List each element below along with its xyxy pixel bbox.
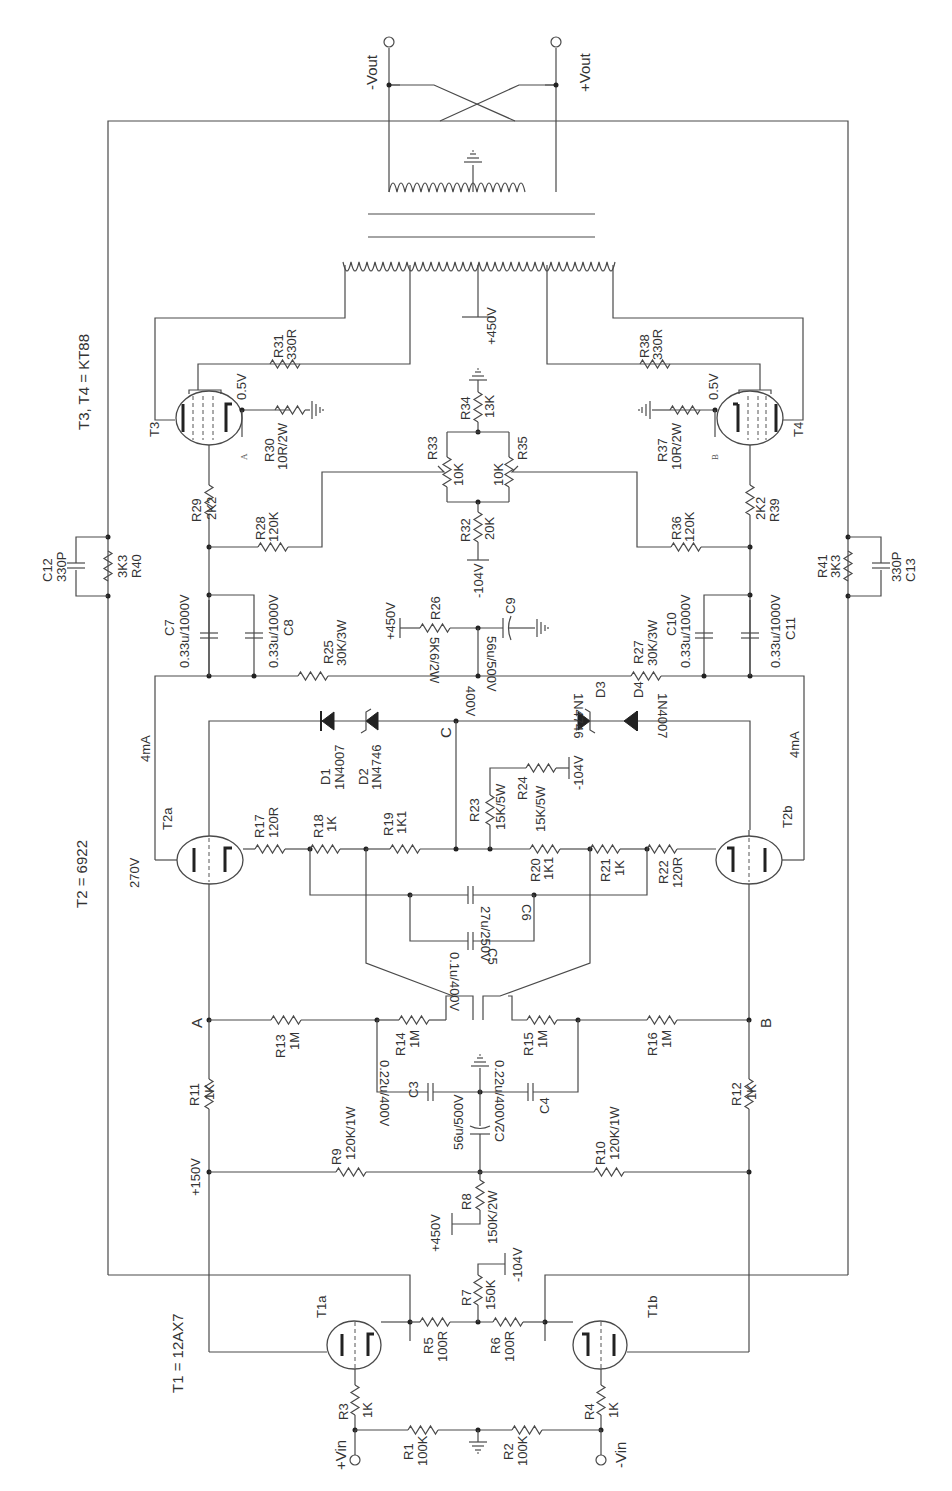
vin-neg-terminal[interactable] <box>596 1455 606 1465</box>
d4-val: 1N4007 <box>655 693 670 739</box>
c3-ref: C3 <box>406 1081 421 1098</box>
voltage-label: -104V <box>510 1247 525 1282</box>
voltage-label: 0.5V <box>706 373 721 400</box>
r40-ref: R40 <box>129 554 144 578</box>
tube-t1b <box>545 1321 749 1385</box>
note-t34-type: T3, T4 = KT88 <box>75 334 92 430</box>
t1-cathode-network <box>408 1253 548 1326</box>
r38-val: 330R <box>650 329 665 360</box>
r11-ref: R11 <box>187 1083 202 1106</box>
d4-ref: D4 <box>631 681 646 698</box>
c2-val: 56u/500V <box>451 1094 466 1150</box>
c11-ref: C11 <box>783 617 798 640</box>
r27-ref: R27 <box>631 640 646 664</box>
r9-ref: R9 <box>329 1148 344 1165</box>
node-label-a: A <box>188 1018 205 1028</box>
node-label-c: C <box>437 727 454 738</box>
secondary-ground-icon <box>464 151 482 162</box>
feedback-rc-right <box>844 535 890 599</box>
r4-ref: R4 <box>582 1403 597 1420</box>
tube-t2a <box>155 830 243 1020</box>
r35-val: 10K <box>491 463 506 486</box>
voltage-label: -104V <box>471 563 486 598</box>
current-label: 4mA <box>138 735 153 762</box>
d3-val: 1N4746 <box>571 693 586 739</box>
r26-val: 5K6/2W <box>427 637 442 684</box>
c12-val: 330P <box>54 552 69 582</box>
r39-ref: R39 <box>767 498 782 522</box>
r32-val: 20K <box>482 517 497 540</box>
r28-val: 120K <box>266 511 281 542</box>
r27-val: 30K/3W <box>645 619 660 666</box>
c3-val: 0.22u/400V <box>377 1060 392 1127</box>
c7-ref: C7 <box>162 619 177 636</box>
r3-ref: R3 <box>336 1403 351 1420</box>
r1-val: 100K <box>415 1435 430 1466</box>
r25-val: 30K/3W <box>334 619 349 666</box>
r13-val: 1M <box>287 1032 302 1050</box>
r7-val: 150K <box>483 1279 498 1310</box>
r22-val: 120R <box>670 857 685 888</box>
r14-val: 1M <box>407 1030 422 1048</box>
r22-ref: R22 <box>656 860 671 884</box>
r33-ref: R33 <box>425 436 440 460</box>
vin-pos-label: +Vin <box>332 1440 349 1470</box>
c11-val: 0.33u/1000V <box>768 594 783 668</box>
r19-val: 1K1 <box>394 811 409 834</box>
vout-pos-terminal[interactable] <box>551 37 561 47</box>
plus150-rail <box>207 1168 752 1235</box>
tube-t2b <box>716 830 804 1020</box>
r15-val: 1M <box>535 1030 550 1048</box>
r2-val: 100K <box>515 1435 530 1466</box>
vout-pos-label: +Vout <box>576 52 593 92</box>
tube-label-t1b: T1b <box>645 1296 660 1318</box>
r14-ref: R14 <box>393 1032 408 1056</box>
r23-ref: R23 <box>467 798 482 822</box>
r6-val: 100R <box>502 1331 517 1362</box>
r1-ref: R1 <box>401 1443 416 1460</box>
r15-ref: R15 <box>521 1032 536 1056</box>
tube-label-t1a: T1a <box>314 1295 329 1318</box>
vin-pos-terminal[interactable] <box>350 1455 360 1465</box>
r8-val: 150K/2W <box>485 1190 500 1244</box>
r26-ref: R26 <box>428 596 443 620</box>
node-label-b: B <box>757 1018 774 1028</box>
r35-ref: R35 <box>515 436 530 460</box>
r34-val: 13K <box>482 395 497 418</box>
vout-neg-terminal[interactable] <box>384 37 394 47</box>
d3-ref: D3 <box>593 681 608 698</box>
r11-val: 1K <box>202 1084 217 1100</box>
note-t1-type: T1 = 12AX7 <box>169 1313 186 1393</box>
r12-ref: R12 <box>729 1082 744 1106</box>
r20-val: 1K1 <box>541 857 556 880</box>
r37-val: 10R/2W <box>669 422 684 470</box>
d1-val: 1N4007 <box>332 744 347 790</box>
r29-ref: R29 <box>189 498 204 522</box>
c8-val: 0.33u/1000V <box>266 594 281 668</box>
r33-val: 10K <box>451 463 466 486</box>
feedback-rc-left <box>67 535 112 599</box>
r36-val: 120K <box>682 511 697 542</box>
c10-val: 0.33u/1000V <box>678 594 693 668</box>
r31-val: 330R <box>284 329 299 360</box>
tube-label-t4: T4 <box>791 422 806 437</box>
r4-val: 1K <box>606 1402 621 1418</box>
c5-val: 0.1u/400V <box>447 952 462 1012</box>
c8-ref: C8 <box>281 619 296 636</box>
r13-ref: R13 <box>273 1034 288 1058</box>
r9-val: 120K/1W <box>343 1106 358 1160</box>
c12-ref: C12 <box>40 558 55 582</box>
r5-val: 100R <box>435 1331 450 1362</box>
tube-t1a <box>209 1321 410 1385</box>
r5-ref: R5 <box>421 1337 436 1354</box>
c9-val: 56u/500V <box>484 636 499 692</box>
c9-ref: C9 <box>503 597 518 614</box>
c5-ref-display: C5 <box>485 948 500 965</box>
r26-c9-supply <box>400 616 548 676</box>
r37-ref: R37 <box>655 438 670 462</box>
r12-val: 1K <box>744 1084 759 1100</box>
r16-val: 1M <box>659 1030 674 1048</box>
current-label: 4mA <box>787 731 802 758</box>
r10-ref: R10 <box>593 1141 608 1165</box>
voltage-label: -104V <box>571 755 586 790</box>
